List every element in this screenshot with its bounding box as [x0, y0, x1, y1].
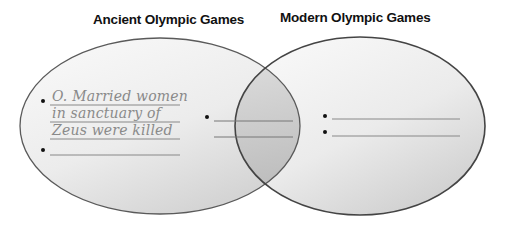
right-set-title: Modern Olympic Games — [280, 10, 431, 25]
handwritten-entry-line-2: in sanctuary of — [52, 104, 161, 122]
handwritten-entry-line-1: O. Married women — [52, 87, 188, 105]
handwritten-entry-line-3: Zeus were killed — [52, 121, 173, 139]
left-set-title: Ancient Olympic Games — [93, 12, 244, 27]
